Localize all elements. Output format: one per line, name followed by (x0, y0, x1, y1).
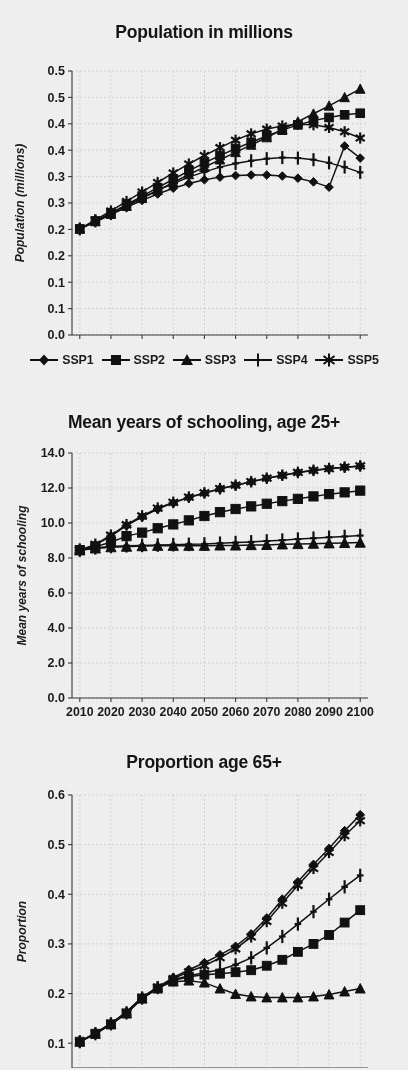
y-tick-label: 0.0 (48, 328, 65, 342)
x-tick-label: 2090 (315, 342, 343, 343)
y-tick-label: 2.0 (48, 656, 65, 670)
x-tick-label: 2050 (191, 705, 219, 719)
plot-area-schooling: 0.02.04.06.08.010.012.014.02010202020302… (0, 433, 408, 733)
x-tick-label: 2040 (160, 705, 188, 719)
legend-item-ssp2[interactable]: SSP2 (101, 352, 165, 368)
y-tick-label: 0.6 (48, 788, 65, 802)
series-ssp3 (75, 84, 365, 233)
chart-title-population: Population in millions (0, 0, 408, 43)
data-series-group (75, 810, 365, 1048)
age65-line-chart: 0.10.20.30.40.50.6Proportion (0, 773, 408, 1068)
y-tick-label: 14.0 (41, 446, 65, 460)
chart-title-schooling: Mean years of schooling, age 25+ (0, 388, 408, 433)
series-ssp1 (75, 810, 364, 1046)
y-tick-label: 8.0 (48, 551, 65, 565)
x-tick-label: 2090 (315, 705, 343, 719)
legend-label-ssp4: SSP4 (276, 353, 307, 367)
schooling-line-chart: 0.02.04.06.08.010.012.014.02010202020302… (0, 433, 408, 733)
triangle-marker-icon (172, 352, 202, 368)
x-tick-label: 2070 (253, 342, 281, 343)
chart-panel-age65: Proportion age 65+ 0.10.20.30.40.50.6Pro… (0, 730, 408, 1070)
y-tick-label: 0.0 (48, 691, 65, 705)
y-tick-label: 6.0 (48, 586, 65, 600)
legend-label-ssp5: SSP5 (347, 353, 378, 367)
y-tick-label: 0.3 (48, 170, 65, 184)
y-tick-label: 0.5 (48, 91, 65, 105)
legend-label-ssp2: SSP2 (134, 353, 165, 367)
y-tick-label: 10.0 (41, 516, 65, 530)
y-tick-label: 0.2 (48, 223, 65, 237)
x-tick-label: 2010 (66, 705, 94, 719)
diamond-marker-icon (29, 352, 59, 368)
x-tick-label: 2060 (222, 342, 250, 343)
x-tick-label: 2010 (66, 342, 94, 343)
x-tick-label: 2080 (284, 342, 312, 343)
plus-marker-icon (243, 352, 273, 368)
legend-item-ssp4[interactable]: SSP4 (243, 352, 307, 368)
chart-title-age65: Proportion age 65+ (0, 730, 408, 773)
series-ssp5 (75, 815, 365, 1047)
y-tick-label: 0.5 (48, 838, 65, 852)
x-tick-label: 2020 (97, 705, 125, 719)
x-tick-label: 2030 (128, 705, 156, 719)
plot-area-population: 0.00.10.10.20.20.30.30.40.40.50.52010202… (0, 43, 408, 343)
x-tick-label: 2100 (347, 705, 375, 719)
x-tick-label: 2070 (253, 705, 281, 719)
y-tick-label: 4.0 (48, 621, 65, 635)
y-tick-label: 0.4 (48, 888, 65, 902)
asterisk-marker-icon (314, 352, 344, 368)
data-series-group (75, 84, 365, 235)
legend-label-ssp3: SSP3 (205, 353, 236, 367)
y-tick-label: 0.3 (48, 937, 65, 951)
y-tick-label: 0.2 (48, 987, 65, 1001)
legend-label-ssp1: SSP1 (62, 353, 93, 367)
y-tick-label: 0.4 (48, 144, 65, 158)
y-axis-title: Proportion (15, 901, 29, 962)
y-tick-label: 0.4 (48, 117, 65, 131)
plot-area-age65: 0.10.20.30.40.50.6Proportion (0, 773, 408, 1068)
y-tick-label: 0.1 (48, 302, 65, 316)
x-tick-label: 2050 (191, 342, 219, 343)
series-legend: SSP1 SSP2 SSP3 (0, 352, 408, 368)
x-tick-label: 2100 (347, 342, 375, 343)
x-tick-label: 2080 (284, 705, 312, 719)
y-tick-label: 12.0 (41, 481, 65, 495)
y-tick-label: 0.1 (48, 276, 65, 290)
legend-item-ssp3[interactable]: SSP3 (172, 352, 236, 368)
series-ssp3 (75, 976, 365, 1046)
legend-item-ssp5[interactable]: SSP5 (314, 352, 378, 368)
y-tick-label: 0.1 (48, 1037, 65, 1051)
y-tick-label: 0.5 (48, 64, 65, 78)
y-axis-title: Mean years of schooling (15, 505, 29, 646)
square-marker-icon (101, 352, 131, 368)
y-tick-label: 0.3 (48, 196, 65, 210)
scanned-figure-page: Population in millions 0.00.10.10.20.20.… (0, 0, 408, 1070)
series-ssp4 (77, 151, 364, 235)
chart-panel-schooling: Mean years of schooling, age 25+ 0.02.04… (0, 388, 408, 730)
x-tick-label: 2020 (97, 342, 125, 343)
x-tick-label: 2040 (160, 342, 188, 343)
x-tick-label: 2030 (128, 342, 156, 343)
y-axis-title: Population (millions) (13, 144, 27, 263)
x-tick-label: 2060 (222, 705, 250, 719)
chart-panel-population: Population in millions 0.00.10.10.20.20.… (0, 0, 408, 388)
legend-item-ssp1[interactable]: SSP1 (29, 352, 93, 368)
y-tick-label: 0.2 (48, 249, 65, 263)
population-line-chart: 0.00.10.10.20.20.30.30.40.40.50.52010202… (0, 43, 408, 343)
data-series-group (75, 460, 366, 557)
